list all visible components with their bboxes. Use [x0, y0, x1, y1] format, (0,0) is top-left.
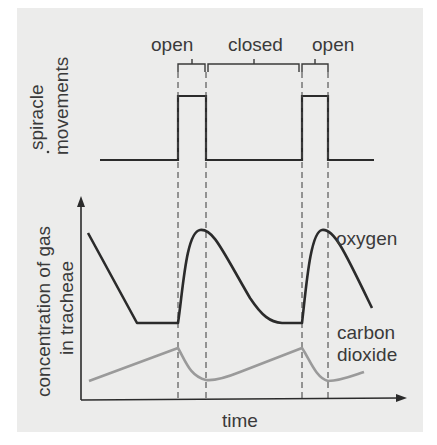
oxygen-label: oxygen [336, 228, 397, 249]
phase-label-open-1: open [151, 34, 193, 55]
x-axis-arrow-icon [396, 394, 407, 402]
x-axis [81, 398, 400, 400]
phase-label-closed: closed [228, 34, 283, 55]
phase-guide-lines [178, 72, 328, 398]
phase-label-open-2: open [312, 34, 354, 55]
oxygen-curve [88, 230, 372, 323]
phase-brackets [178, 59, 328, 72]
spiracle-gas-diagram: spiracle movements open closed open conc… [0, 0, 437, 445]
spiracle-panel: spiracle movements open closed open [26, 34, 374, 160]
co2-label-line1: carbon [337, 322, 395, 343]
gas-panel: concentration of gas in tracheae time ox… [33, 196, 407, 431]
spiracle-ylabel-line1: spiracle [26, 85, 47, 150]
y-axis-arrow-icon [77, 196, 85, 207]
x-axis-label: time [222, 410, 258, 431]
stray-dot [47, 151, 50, 154]
co2-label-line2: dioxide [337, 344, 397, 365]
spiracle-ylabel-line2: movements [51, 57, 72, 155]
co2-curve [89, 348, 364, 381]
spiracle-square-wave [100, 96, 374, 160]
gas-ylabel-line2: in tracheae [56, 261, 77, 355]
gas-ylabel-line1: concentration of gas [33, 226, 54, 397]
